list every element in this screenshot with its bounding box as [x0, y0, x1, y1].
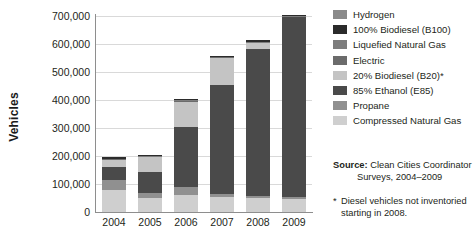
- legend-item: Propane: [333, 99, 474, 112]
- source-label: Source:: [333, 160, 368, 170]
- gridline: [96, 156, 312, 157]
- bar-segment: [102, 190, 126, 212]
- y-axis-tick-label: 100,000: [34, 178, 90, 190]
- bar-2006: [174, 99, 198, 212]
- x-axis-tick-label: 2006: [169, 216, 203, 228]
- bar-segment: [174, 195, 198, 212]
- bar-segment: [138, 198, 162, 212]
- legend-label: 85% Ethanol (E85): [353, 85, 434, 96]
- y-axis-tick-label: 0: [34, 206, 90, 218]
- x-axis-tick-label: 2008: [241, 216, 275, 228]
- chart-legend: Hydrogen100% Biodiesel (B100)Liquefied N…: [333, 8, 474, 130]
- plot-area: [96, 14, 312, 212]
- legend-swatch: [333, 86, 347, 95]
- legend-item: Electric: [333, 54, 474, 67]
- legend-label: Electric: [353, 55, 384, 66]
- legend-label: Propane: [353, 100, 389, 111]
- y-axis-tick-label: 300,000: [34, 122, 90, 134]
- bar-segment: [282, 199, 306, 212]
- legend-swatch: [333, 116, 347, 125]
- legend-item: Compressed Natural Gas: [333, 114, 474, 127]
- footnote-text: Diesel vehicles not inventoried starting…: [333, 196, 474, 219]
- bar-segment: [174, 127, 198, 187]
- y-axis-tick-label: 600,000: [34, 38, 90, 50]
- bar-segment: [102, 160, 126, 167]
- legend-item: 100% Biodiesel (B100): [333, 23, 474, 36]
- x-axis-tick-label: 2005: [133, 216, 167, 228]
- legend-item: 20% Biodiesel (B20)*: [333, 69, 474, 82]
- x-axis-tick-label: 2009: [277, 216, 311, 228]
- legend-label: 20% Biodiesel (B20)*: [353, 70, 444, 81]
- source-note: Source: Clean Cities Coordinator Surveys…: [333, 160, 474, 183]
- bar-segment: [210, 58, 234, 85]
- bar-2004: [102, 157, 126, 212]
- bar-segment: [138, 157, 162, 172]
- stacked-bar-chart: Vehicles 0100,000200,000300,000400,00050…: [0, 0, 474, 245]
- bar-segment: [246, 198, 270, 212]
- y-axis-tick-label: 700,000: [34, 10, 90, 22]
- legend-swatch: [333, 10, 347, 19]
- bar-2008: [246, 40, 270, 212]
- bar-segment: [282, 17, 306, 196]
- gridline: [96, 100, 312, 101]
- legend-swatch: [333, 40, 347, 49]
- y-axis-tick-labels: 0100,000200,000300,000400,000500,000600,…: [32, 0, 90, 245]
- y-axis-tick-label: 200,000: [34, 150, 90, 162]
- legend-swatch: [333, 71, 347, 80]
- source-line-2: Surveys, 2004–2009: [333, 172, 474, 184]
- source-line-1: Clean Cities Coordinator: [370, 160, 471, 170]
- bar-segment: [138, 172, 162, 193]
- legend-swatch: [333, 101, 347, 110]
- legend-item: Liquefied Natural Gas: [333, 38, 474, 51]
- footnote-marker: *: [333, 196, 337, 208]
- y-axis-title: Vehicles: [7, 82, 21, 152]
- bar-segment: [210, 197, 234, 212]
- legend-label: 100% Biodiesel (B100): [353, 24, 451, 35]
- gridline: [96, 72, 312, 73]
- legend-item: 85% Ethanol (E85): [333, 84, 474, 97]
- gridline: [96, 128, 312, 129]
- gridline: [96, 16, 312, 17]
- x-axis-tick-label: 2004: [97, 216, 131, 228]
- legend-label: Compressed Natural Gas: [353, 115, 461, 126]
- legend-label: Liquefied Natural Gas: [353, 39, 446, 50]
- legend-swatch: [333, 56, 347, 65]
- bar-segment: [174, 187, 198, 195]
- bar-segment: [102, 180, 126, 190]
- bar-segment: [246, 49, 270, 196]
- y-axis-tick-label: 400,000: [34, 94, 90, 106]
- x-axis-line: [95, 212, 313, 213]
- bar-2007: [210, 56, 234, 212]
- legend-swatch: [333, 25, 347, 34]
- bar-segment: [174, 102, 198, 127]
- footnote: * Diesel vehicles not inventoried starti…: [333, 196, 474, 219]
- y-axis-tick-label: 500,000: [34, 66, 90, 78]
- bar-segment: [102, 167, 126, 180]
- gridline: [96, 44, 312, 45]
- gridline: [96, 184, 312, 185]
- bar-2009: [282, 15, 306, 212]
- x-axis-tick-label: 2007: [205, 216, 239, 228]
- bar-2005: [138, 155, 162, 212]
- bar-segment: [210, 85, 234, 195]
- legend-item: Hydrogen: [333, 8, 474, 21]
- legend-label: Hydrogen: [353, 9, 395, 20]
